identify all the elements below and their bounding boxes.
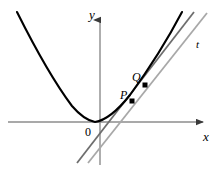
math-figure: y x 0 P Q t — [0, 0, 217, 170]
tangent-line-label: t — [196, 39, 199, 50]
point-marker-p — [130, 99, 135, 104]
origin-label: 0 — [85, 126, 91, 138]
y-axis-label: y — [89, 8, 95, 21]
figure-canvas — [0, 0, 217, 170]
x-axis-label: x — [203, 130, 209, 143]
point-label-q: Q — [132, 71, 141, 83]
point-marker-q — [143, 83, 148, 88]
tangent-line-t — [88, 13, 207, 163]
point-label-p: P — [120, 89, 127, 101]
